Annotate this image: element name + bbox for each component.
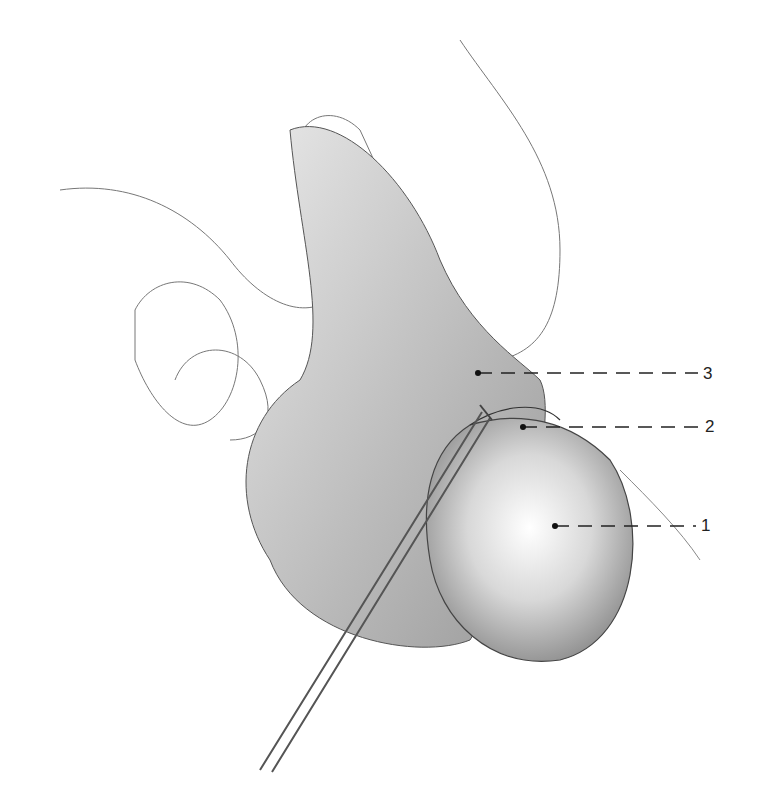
- callout-label-3: 3: [703, 365, 712, 382]
- medical-illustration: [0, 0, 760, 793]
- callout-label-2: 2: [705, 418, 714, 435]
- callout-label-1: 1: [701, 517, 710, 534]
